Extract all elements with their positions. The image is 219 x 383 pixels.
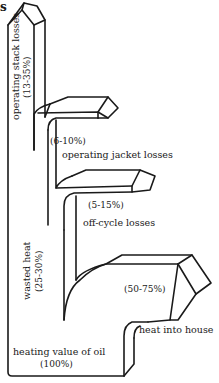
heat-into-house-value: (50-75%) [124, 284, 166, 294]
jacket-losses-label: operating jacket losses [62, 149, 173, 160]
wasted-heat-label: wasted heat [21, 241, 32, 300]
stack-losses-value: (13-35%) [22, 56, 32, 98]
offcycle-losses-label: off-cycle losses [83, 217, 155, 228]
offcycle-losses-value: (5-15%) [88, 200, 124, 210]
jacket-losses-value: (6-10%) [50, 136, 86, 146]
input-value: (100%) [40, 359, 73, 369]
wasted-heat-value: (25-30%) [34, 250, 44, 292]
input-label: heating value of oil [13, 346, 105, 357]
stack-losses-label: operating stack losses [10, 13, 21, 120]
heat-into-house-arrow [64, 230, 211, 322]
corner-text-fragment: s [0, 0, 7, 14]
energy-flow-diagram: s [0, 0, 219, 383]
heat-into-house-label: heat into house [139, 324, 214, 335]
